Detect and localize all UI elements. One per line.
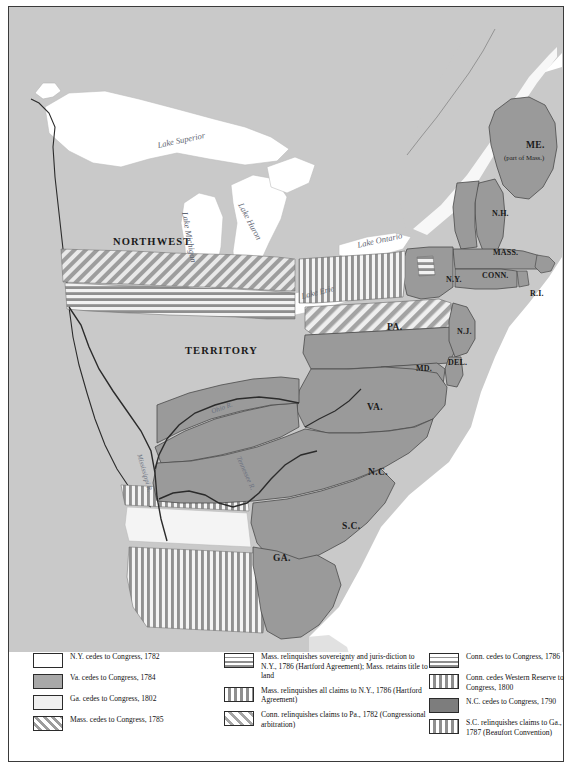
legend-label: Ga. cedes to Congress, 1802 [70,694,156,704]
legend-label: Conn. cedes Western Reserve to Congress,… [466,673,569,692]
legend-swatch-icon [429,698,459,713]
legend-column-3: Conn. cedes to Congress, 1786Conn. cedes… [429,652,569,742]
map-graphic [9,7,562,652]
legend-item: Mass. cedes to Congress, 1785 [33,715,223,731]
map-legend: N.Y. cedes to Congress, 1782Va. cedes to… [9,652,563,761]
map-panel: NORTHWEST TERRITORY ME. (part of Mass.) … [9,7,563,652]
legend-column-2: Mass. relinquishes sovereignty and juris… [224,652,429,734]
legend-swatch-icon [33,674,63,689]
legend-item: Mass. relinquishes sovereignty and juris… [224,652,429,681]
legend-swatch-icon [224,711,254,726]
legend-column-1: N.Y. cedes to Congress, 1782Va. cedes to… [33,652,223,736]
legend-item: Mass. relinquishes all claims to N.Y., 1… [224,686,429,705]
map-frame: NORTHWEST TERRITORY ME. (part of Mass.) … [8,6,564,762]
legend-swatch-icon [33,716,63,731]
legend-swatch-icon [33,653,63,668]
legend-swatch-icon [429,653,459,668]
legend-label: Mass. relinquishes all claims to N.Y., 1… [261,686,429,705]
legend-label: N.Y. cedes to Congress, 1782 [70,652,160,662]
historical-map-figure: NORTHWEST TERRITORY ME. (part of Mass.) … [0,0,575,779]
legend-label: Conn. cedes to Congress, 1786 [466,652,560,662]
legend-swatch-icon [224,653,254,668]
legend-item: Conn. cedes to Congress, 1786 [429,652,569,668]
legend-item: N.C. cedes to Congress, 1790 [429,697,569,713]
legend-swatch-icon [429,674,459,689]
legend-label: Mass. relinquishes sovereignty and juris… [261,652,429,681]
legend-swatch-icon [224,687,254,702]
legend-label: N.C. cedes to Congress, 1790 [466,697,556,707]
legend-label: Conn. relinquishes claims to Pa., 1782 (… [261,710,429,729]
legend-label: S.C. relinquishes claims to Ga., 1787 (B… [466,718,569,737]
legend-label: Va. cedes to Congress, 1784 [70,673,156,683]
legend-swatch-icon [33,695,63,710]
legend-item: N.Y. cedes to Congress, 1782 [33,652,223,668]
legend-item: Conn. relinquishes claims to Pa., 1782 (… [224,710,429,729]
legend-item: Ga. cedes to Congress, 1802 [33,694,223,710]
legend-item: S.C. relinquishes claims to Ga., 1787 (B… [429,718,569,737]
legend-swatch-icon [429,719,459,734]
legend-item: Va. cedes to Congress, 1784 [33,673,223,689]
legend-label: Mass. cedes to Congress, 1785 [70,715,164,725]
legend-item: Conn. cedes Western Reserve to Congress,… [429,673,569,692]
